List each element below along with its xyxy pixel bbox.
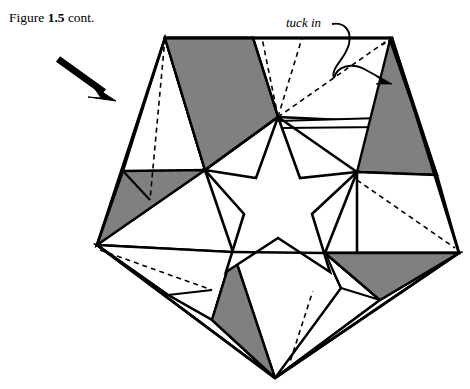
tuck-in-label: tuck in <box>286 15 321 30</box>
panel-left-shaded-triangle <box>97 170 205 245</box>
origami-pentagon-star-diagram: tuck in <box>0 0 470 389</box>
panel-upper-right-white-lower <box>357 172 459 253</box>
thick-arrow-icon <box>58 59 116 101</box>
figure-container: Figure 1.5 cont. <box>0 0 470 389</box>
arrow-shaft <box>58 59 104 92</box>
inner-edge-4 <box>233 252 325 253</box>
